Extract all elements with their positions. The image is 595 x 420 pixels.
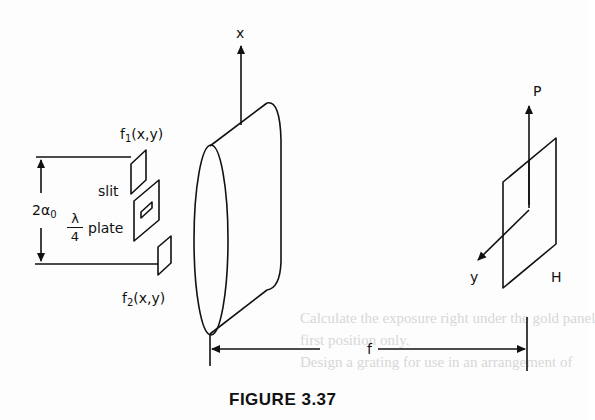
slit-plate bbox=[134, 180, 159, 241]
f1-label: f1(x,y) bbox=[120, 127, 163, 144]
focal-length-label: f bbox=[367, 342, 372, 356]
lens-back-edge bbox=[267, 103, 281, 290]
lens-top-edge bbox=[210, 103, 267, 146]
p-axis-label: P bbox=[533, 84, 541, 98]
two-alpha-label: 2α0 bbox=[32, 203, 57, 220]
lens-front-ellipse bbox=[194, 145, 228, 335]
f2-mask bbox=[158, 236, 171, 275]
y-axis-label: y bbox=[470, 270, 478, 284]
figure-caption: FIGURE 3.37 bbox=[229, 390, 337, 410]
quarter-wave-fraction: λ 4 bbox=[67, 211, 83, 244]
h-plane-label: H bbox=[551, 270, 562, 284]
x-axis-label: x bbox=[236, 26, 244, 40]
f1-mask bbox=[131, 150, 146, 194]
plate-label: plate bbox=[88, 221, 123, 235]
f2-label: f2(x,y) bbox=[122, 291, 165, 308]
slit-label: slit bbox=[98, 184, 119, 198]
